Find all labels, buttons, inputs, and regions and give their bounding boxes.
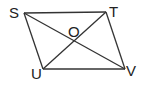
vertex-label-v: V	[126, 62, 136, 79]
vertex-label-u: U	[31, 65, 42, 82]
intersection-label-o: O	[68, 23, 80, 40]
diagonal-ut	[43, 12, 106, 69]
vertex-label-s: S	[9, 4, 19, 21]
side-st	[24, 12, 106, 13]
vertex-label-t: T	[109, 3, 118, 20]
parallelogram-diagram: S T U V O	[0, 0, 144, 85]
